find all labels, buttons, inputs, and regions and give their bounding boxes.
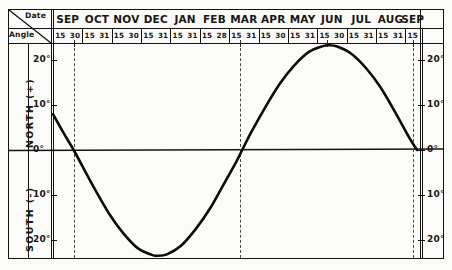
declination-curve-svg: [0, 0, 452, 270]
declination-curve-path: [53, 45, 417, 256]
declination-chart: Date Angle SEPOCTNOVDECJANFEBMARAPRMAYJU…: [0, 0, 452, 270]
